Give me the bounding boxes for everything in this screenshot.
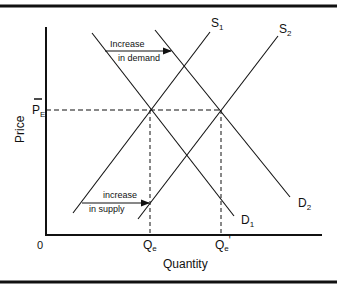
- d2-label: D2: [298, 196, 312, 212]
- increase-demand-text-line2: in demand: [118, 53, 160, 63]
- price-equilibrium-label: PE: [32, 103, 45, 119]
- s1-label: S1: [211, 16, 224, 32]
- qe-prime-label: Qe': [215, 235, 231, 253]
- supply-curve-s2: [138, 36, 278, 219]
- d1-label: D1: [241, 213, 255, 229]
- y-axis-label: Price: [13, 115, 27, 143]
- qe-label: Qe: [143, 238, 157, 253]
- supply-demand-diagram: PE Price 0 Qe Qe' Quantity S1 S2 D1 D2 I…: [0, 0, 337, 288]
- demand-curve-d1: [92, 33, 234, 216]
- x-axis-label: Quantity: [163, 257, 208, 271]
- demand-curve-d2: [155, 30, 290, 197]
- s2-label: S2: [279, 22, 292, 38]
- origin-label: 0: [37, 239, 43, 251]
- increase-supply-text-line1: increase: [103, 190, 137, 200]
- increase-demand-text-line1: Increase: [110, 39, 145, 49]
- increase-supply-text-line2: in supply: [89, 204, 125, 214]
